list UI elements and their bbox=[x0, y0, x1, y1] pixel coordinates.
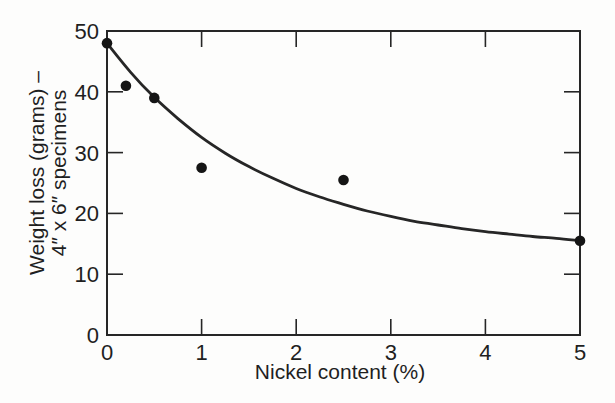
scatter-chart: 01234501020304050Nickel content (%)Weigh… bbox=[0, 0, 615, 403]
figure-page: 01234501020304050Nickel content (%)Weigh… bbox=[0, 0, 615, 403]
data-point bbox=[149, 93, 160, 104]
y-tick-label: 10 bbox=[75, 262, 99, 287]
x-tick-label: 0 bbox=[101, 340, 113, 365]
data-point bbox=[575, 235, 586, 246]
fitted-curve bbox=[107, 43, 580, 241]
x-tick-label: 5 bbox=[574, 340, 586, 365]
data-point bbox=[121, 80, 132, 91]
x-axis-label: Nickel content (%) bbox=[255, 360, 425, 383]
y-tick-label: 0 bbox=[87, 323, 99, 348]
y-tick-label: 50 bbox=[75, 19, 99, 44]
x-tick-label: 4 bbox=[479, 340, 491, 365]
data-point bbox=[102, 38, 113, 49]
y-tick-label: 20 bbox=[75, 201, 99, 226]
data-point bbox=[196, 163, 207, 174]
y-axis-label-line2: 4″ x 6″ specimens bbox=[47, 90, 70, 257]
y-tick-label: 40 bbox=[75, 80, 99, 105]
y-tick-label: 30 bbox=[75, 141, 99, 166]
data-point bbox=[338, 175, 349, 186]
x-tick-label: 1 bbox=[195, 340, 207, 365]
y-axis-label-line1: Weight loss (grams) – bbox=[25, 71, 48, 275]
